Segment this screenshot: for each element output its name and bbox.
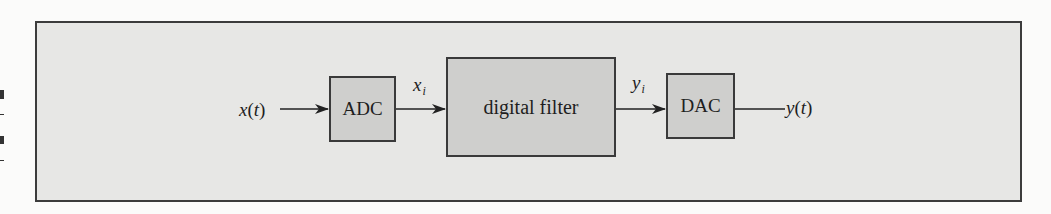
- input-signal-label: x(t): [239, 100, 265, 119]
- filtered-output-var: y: [632, 72, 640, 93]
- digital-filter-block-label: digital filter: [484, 96, 579, 119]
- filtered-output-subscript: i: [641, 82, 644, 96]
- filtered-output-label: yi: [632, 73, 645, 95]
- digital-filter-block: digital filter: [446, 57, 616, 157]
- output-signal-label: y(t): [786, 98, 812, 117]
- sampled-input-label: xi: [413, 75, 426, 97]
- adc-block-label: ADC: [342, 98, 382, 120]
- adc-block: ADC: [329, 76, 396, 142]
- dac-block-label: DAC: [680, 95, 720, 117]
- sampled-input-var: x: [413, 74, 421, 95]
- input-close-paren: ): [259, 99, 265, 120]
- output-close-paren: ): [806, 97, 812, 118]
- sampled-input-subscript: i: [422, 84, 425, 98]
- dac-block: DAC: [666, 73, 735, 139]
